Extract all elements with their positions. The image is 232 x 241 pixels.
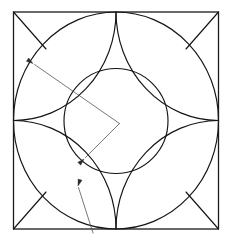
- geometry-figure: [0, 0, 232, 241]
- geometry-canvas: [0, 0, 232, 241]
